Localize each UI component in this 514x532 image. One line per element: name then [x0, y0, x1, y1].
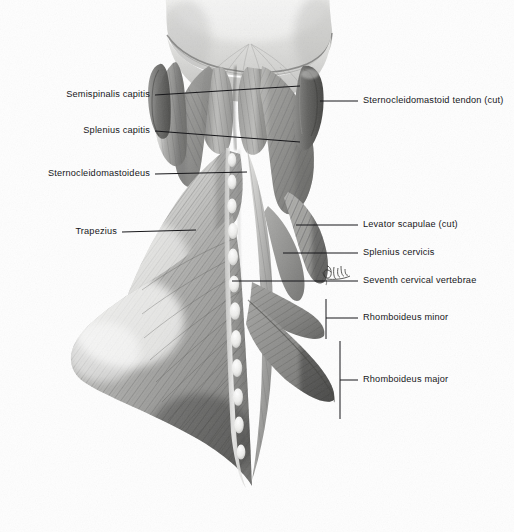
label-semispinalis-capitis: Semispinalis capitis [0, 90, 150, 99]
label-sternocleidomastoideus: Sternocleidomastoideus [0, 169, 150, 178]
label-splenius-cervicis: Splenius cervicis [363, 248, 434, 257]
label-sternocleidomastoid-tendon-cut: Sternocleidomastoid tendon (cut) [363, 96, 504, 105]
label-levator-scapulae-cut: Levator scapulae (cut) [363, 220, 458, 229]
label-rhomboideus-minor: Rhomboideus minor [363, 313, 448, 322]
anatomical-plate: Semispinalis capitis Splenius capitis St… [0, 0, 514, 532]
neck-musculature-drawing [0, 0, 514, 532]
label-rhomboideus-major: Rhomboideus major [363, 375, 448, 384]
paper-grain [0, 0, 514, 532]
label-seventh-cervical-vertebrae: Seventh cervical vertebrae [363, 276, 476, 285]
label-trapezius: Trapezius [0, 227, 117, 236]
label-splenius-capitis: Splenius capitis [0, 126, 150, 135]
